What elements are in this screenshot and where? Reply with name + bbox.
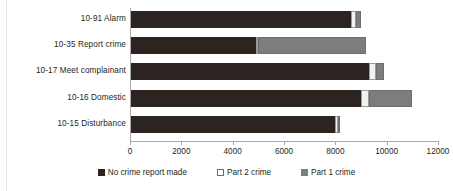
- legend-item-part-1-crime: Part 1 crime: [301, 168, 355, 177]
- bar-row[interactable]: [130, 63, 384, 80]
- legend-label: Part 1 crime: [311, 168, 355, 177]
- x-axis-tick: [181, 141, 182, 145]
- legend-swatch-icon: [217, 169, 224, 176]
- bar-segment[interactable]: [369, 63, 377, 80]
- bar-segment[interactable]: [376, 63, 384, 80]
- x-axis-tick: [233, 141, 234, 145]
- x-axis-tick-label: 12000: [408, 147, 453, 156]
- bar-segment[interactable]: [338, 116, 341, 133]
- bar-segment[interactable]: [130, 116, 335, 133]
- category-label: 10-16 Domestic: [0, 93, 126, 102]
- legend-swatch-icon: [98, 169, 105, 176]
- legend-item-no-crime-report-made: No crime report made: [98, 168, 187, 177]
- category-label: 10-91 Alarm: [0, 14, 126, 23]
- legend-swatch-icon: [301, 169, 308, 176]
- bar-row[interactable]: [130, 116, 340, 133]
- bar-row[interactable]: [130, 90, 412, 107]
- plot-area: 10-91 Alarm 10-35 Report crime 10-17 Mee…: [0, 0, 453, 191]
- x-axis-tick: [438, 141, 439, 145]
- x-axis-tick: [387, 141, 388, 145]
- x-axis-tick: [284, 141, 285, 145]
- legend-label: No crime report made: [108, 168, 187, 177]
- bar-segment[interactable]: [356, 11, 361, 28]
- y-axis-line: [130, 8, 131, 141]
- category-label: 10-15 Disturbance: [0, 119, 126, 128]
- bar-row[interactable]: [130, 11, 361, 28]
- x-axis-tick: [335, 141, 336, 145]
- bar-segment[interactable]: [130, 37, 256, 54]
- bar-segment[interactable]: [130, 63, 369, 80]
- bar-row[interactable]: [130, 37, 366, 54]
- bar-segment[interactable]: [369, 90, 413, 107]
- bar-segment[interactable]: [258, 37, 366, 54]
- legend-label: Part 2 crime: [227, 168, 271, 177]
- category-label: 10-17 Meet complainant: [0, 66, 126, 75]
- category-label: 10-35 Report crime: [0, 40, 126, 49]
- legend-item-part-2-crime: Part 2 crime: [217, 168, 271, 177]
- bar-chart: 10-91 Alarm 10-35 Report crime 10-17 Mee…: [0, 0, 453, 191]
- bar-segment[interactable]: [130, 11, 351, 28]
- bar-segment[interactable]: [130, 90, 361, 107]
- chart-legend: No crime report made Part 2 crime Part 1…: [0, 168, 453, 177]
- x-axis-tick: [130, 141, 131, 145]
- bar-segment[interactable]: [361, 90, 369, 107]
